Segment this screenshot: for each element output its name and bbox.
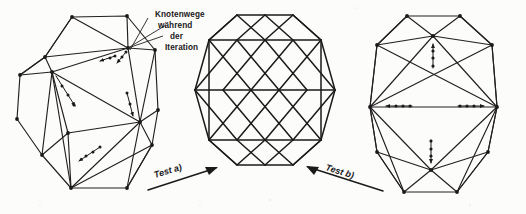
left-mesh-edge	[72, 17, 128, 48]
node-path-trace	[79, 147, 100, 161]
node-path-dot	[129, 103, 132, 106]
test-b-arrow-group: Test b)	[306, 162, 383, 191]
right-mesh-edge	[370, 45, 492, 107]
node-path-dot	[429, 139, 432, 142]
mesh-vertex	[18, 73, 22, 77]
node-path-dot	[85, 155, 88, 158]
left-mesh-edge	[45, 57, 52, 72]
left-mesh-edge	[140, 50, 155, 122]
node-path-trace	[56, 76, 75, 106]
left-mesh-edge	[128, 48, 140, 122]
mesh-vertex	[50, 70, 54, 74]
node-path-dot	[431, 56, 434, 59]
node-path-dot	[394, 104, 397, 107]
node-path-dot	[431, 49, 434, 52]
node-path-dot	[126, 92, 129, 95]
right-mesh-group	[368, 14, 499, 194]
right-mesh-edge	[377, 45, 497, 107]
mesh-vertex	[43, 55, 47, 59]
node-path-dot	[125, 51, 128, 54]
mesh-vertex	[15, 117, 19, 121]
middle-mesh-edge	[209, 15, 237, 40]
middle-mesh-group	[195, 15, 335, 165]
node-path-dot	[472, 104, 475, 107]
node-path-dot	[92, 151, 95, 154]
middle-mesh-edge	[293, 140, 321, 165]
callout-line-2: während	[157, 21, 192, 30]
node-path-dot	[429, 154, 432, 157]
mesh-vertex	[375, 150, 379, 154]
left-mesh-edge	[42, 72, 52, 155]
node-path-dot	[99, 146, 102, 149]
node-path-dot	[109, 57, 112, 60]
node-path-dot	[465, 104, 468, 107]
middle-mesh-edge	[209, 140, 237, 165]
left-mesh-edge	[128, 48, 155, 50]
node-path-dot	[67, 94, 70, 97]
left-mesh-edge	[68, 122, 140, 133]
mesh-vertex	[495, 105, 499, 109]
mesh-vertex	[486, 150, 490, 154]
mesh-vertex	[40, 153, 44, 157]
mesh-vertex	[138, 120, 142, 124]
node-path-dot	[429, 147, 432, 150]
left-mesh-edge	[52, 72, 71, 188]
right-node-paths	[386, 44, 484, 163]
right-mesh-edge	[433, 36, 497, 107]
mesh-vertex	[66, 131, 70, 135]
mesh-vertex	[368, 105, 372, 109]
left-mesh-edge	[20, 57, 45, 75]
right-mesh-edge	[433, 16, 460, 36]
node-path-dot	[72, 103, 75, 106]
left-mesh-edge	[140, 122, 152, 145]
node-path-dot	[401, 104, 404, 107]
mesh-vertex	[153, 48, 157, 52]
test-a-arrow-group: Test a)	[148, 162, 218, 190]
mesh-vertex	[429, 168, 433, 172]
mesh-vertex	[125, 186, 129, 190]
callout-label-group: Knotenwege während der Iteration	[155, 10, 205, 52]
right-mesh-edge	[431, 107, 497, 170]
mesh-vertex	[150, 143, 154, 147]
callout-line-4: Iteration	[165, 43, 198, 52]
mesh-vertex	[490, 43, 494, 47]
node-path-dot	[408, 104, 411, 107]
node-path-trace	[100, 56, 115, 61]
right-mesh-edge	[431, 170, 457, 192]
mesh-vertex	[375, 43, 379, 47]
node-path-dot	[458, 104, 461, 107]
right-mesh-edge	[404, 170, 431, 192]
callout-line-3: der	[170, 32, 184, 41]
right-mesh-edge	[370, 107, 431, 170]
left-mesh-edge	[45, 17, 72, 57]
test-a-label: Test a)	[153, 162, 183, 180]
mesh-vertex	[156, 108, 160, 112]
node-path-dot	[114, 55, 117, 58]
mesh-vertex	[402, 190, 406, 194]
mesh-vertex	[431, 34, 435, 38]
left-mesh-group	[15, 14, 166, 190]
figure-container: Knotenwege während der Iteration	[0, 0, 526, 214]
left-mesh-edge	[71, 122, 140, 188]
node-path-dot	[61, 85, 64, 88]
mesh-vertex	[455, 190, 459, 194]
right-mesh-edge	[492, 45, 497, 107]
left-mesh-edge	[20, 72, 52, 75]
right-mesh-edge	[431, 152, 488, 170]
mesh-vertex	[125, 14, 129, 18]
right-mesh-edge	[407, 16, 433, 36]
mesh-vertex	[69, 186, 73, 190]
right-mesh-edge	[370, 45, 377, 107]
node-path-dot	[121, 56, 124, 59]
middle-mesh-edge	[293, 15, 321, 40]
mesh-vertex	[70, 15, 74, 19]
node-path-dot	[431, 64, 434, 67]
mesh-vertex	[405, 14, 409, 18]
mesh-vertex	[126, 46, 130, 50]
left-mesh-edge	[127, 16, 128, 48]
left-mesh-edge	[52, 72, 140, 122]
callout-line-1: Knotenwege	[155, 10, 205, 19]
right-mesh-edge	[370, 107, 404, 192]
mesh-vertex	[458, 14, 462, 18]
right-mesh-edge	[457, 107, 497, 192]
